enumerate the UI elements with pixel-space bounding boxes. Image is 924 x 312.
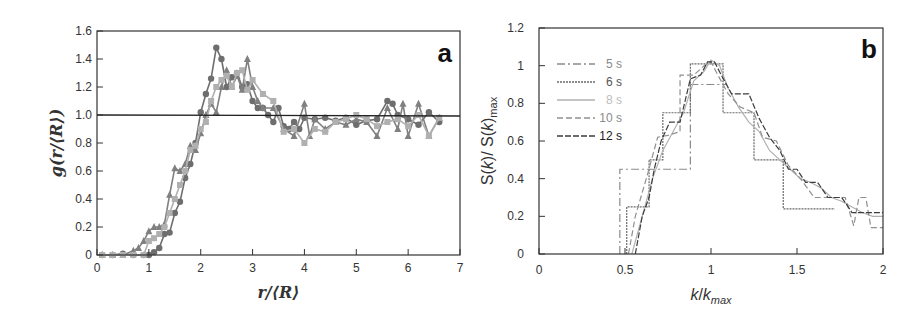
y-tick-label: 0.6 bbox=[75, 164, 92, 178]
chart-b-series bbox=[620, 60, 883, 254]
panel-label-a: a bbox=[438, 38, 453, 68]
chart-b-ticks: 00.511.5200.20.40.60.811.2 bbox=[507, 21, 886, 277]
y-tick-label: 0.4 bbox=[507, 172, 524, 186]
y-tick-label: 0 bbox=[85, 248, 92, 262]
y-tick-label: 0.4 bbox=[75, 192, 92, 206]
legend-label: 12 s bbox=[599, 129, 622, 143]
y-tick-label: 0.8 bbox=[507, 96, 524, 110]
y-tick-label: 1.2 bbox=[75, 80, 92, 94]
series-circles bbox=[99, 45, 442, 259]
legend-label: 5 s bbox=[606, 57, 622, 71]
x-tick-label: 1 bbox=[146, 261, 153, 275]
legend-label: 8 s bbox=[606, 93, 622, 107]
y-tick-label: 1.4 bbox=[75, 52, 92, 66]
y-tick-label: 0.8 bbox=[75, 136, 92, 150]
chart-a-ticks: 0123456700.20.40.60.81.01.21.41.6 bbox=[75, 24, 463, 275]
x-tick-label: 2 bbox=[197, 261, 204, 275]
x-tick-label: 6 bbox=[405, 261, 412, 275]
figure: 0123456700.20.40.60.81.01.21.41.6 r/⟨R⟩ … bbox=[0, 0, 924, 312]
x-tick-label: 2 bbox=[880, 263, 887, 277]
x-tick-label: 5 bbox=[353, 261, 360, 275]
x-tick-label: 0 bbox=[536, 263, 543, 277]
x-tick-label: 0.5 bbox=[617, 263, 634, 277]
x-tick-label: 0 bbox=[94, 261, 101, 275]
y-tick-label: 0 bbox=[517, 247, 524, 261]
chart-b-structure-factor: 00.511.5200.20.40.60.811.2 5 s6 s8 s10 s… bbox=[479, 21, 887, 306]
chart-a-x-axis-label: r/⟨R⟩ bbox=[257, 283, 299, 302]
chart-b-y-axis-label: S(k)/ S(k)max bbox=[479, 96, 499, 185]
series-5-s bbox=[620, 85, 727, 255]
x-tick-label: 1.5 bbox=[789, 263, 806, 277]
chart-a-y-axis-label: g(r/⟨R⟩) bbox=[47, 109, 66, 178]
panel-label-b: b bbox=[861, 34, 877, 64]
series-8-s bbox=[632, 60, 883, 254]
y-tick-label: 1.2 bbox=[507, 21, 524, 35]
x-tick-label: 4 bbox=[301, 261, 308, 275]
y-tick-label: 0.6 bbox=[507, 134, 524, 148]
y-tick-label: 0.2 bbox=[507, 209, 524, 223]
chart-b-x-axis-label: k/kmax bbox=[690, 286, 732, 306]
chart-b-legend: 5 s6 s8 s10 s12 s bbox=[557, 57, 622, 143]
y-tick-label: 0.2 bbox=[75, 220, 92, 234]
series-triangles bbox=[99, 55, 443, 258]
legend-label: 10 s bbox=[599, 111, 622, 125]
x-tick-label: 3 bbox=[249, 261, 256, 275]
series-10-s bbox=[628, 62, 883, 254]
y-tick-label: 1 bbox=[517, 59, 524, 73]
chart-a-rdf: 0123456700.20.40.60.81.01.21.41.6 r/⟨R⟩ … bbox=[47, 24, 464, 302]
y-tick-label: 1.0 bbox=[75, 108, 92, 122]
y-tick-label: 1.6 bbox=[75, 24, 92, 38]
chart-a-series bbox=[99, 45, 443, 259]
x-tick-label: 1 bbox=[708, 263, 715, 277]
x-tick-label: 7 bbox=[457, 261, 464, 275]
chart-a-plot-frame bbox=[97, 31, 460, 255]
series-12-s bbox=[635, 62, 883, 254]
legend-label: 6 s bbox=[606, 75, 622, 89]
